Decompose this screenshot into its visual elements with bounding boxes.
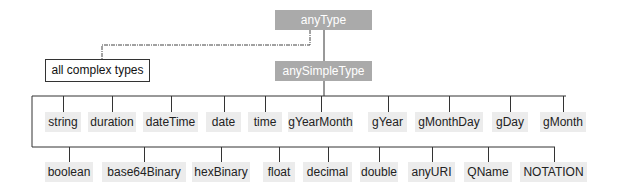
node-gyearmonth: gYearMonth <box>288 112 353 132</box>
node-base64binary: base64Binary <box>102 162 186 182</box>
node-duration: duration <box>88 112 136 132</box>
node-datetime: dateTime <box>143 112 198 132</box>
node-anytype: anyType <box>275 10 372 30</box>
node-notation: NOTATION <box>520 162 587 182</box>
node-anyuri: anyURI <box>408 162 455 182</box>
node-qname: QName <box>464 162 512 182</box>
node-time: time <box>248 112 282 132</box>
node-date: date <box>206 112 241 132</box>
node-gday: gDay <box>492 112 528 132</box>
node-all-complex-types: all complex types <box>45 59 150 82</box>
node-boolean: boolean <box>45 162 93 182</box>
node-gmonthday: gMonthDay <box>415 112 483 132</box>
node-hexbinary: hexBinary <box>192 162 250 182</box>
node-gyear: gYear <box>368 112 407 132</box>
node-float: float <box>263 162 295 182</box>
node-gmonth: gMonth <box>540 112 586 132</box>
node-double: double <box>360 162 398 182</box>
node-string: string <box>45 112 81 132</box>
node-decimal: decimal <box>303 162 352 182</box>
node-anysimpletype: anySimpleType <box>275 61 372 81</box>
